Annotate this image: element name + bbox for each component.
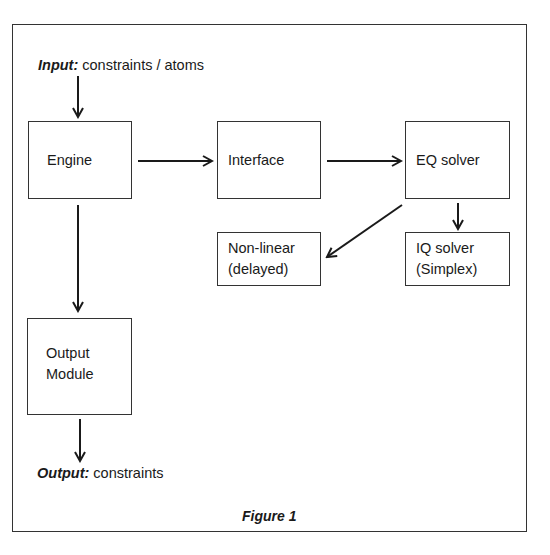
arrow-eq-solver-non-linear bbox=[327, 205, 402, 257]
arrows-layer bbox=[0, 0, 550, 555]
